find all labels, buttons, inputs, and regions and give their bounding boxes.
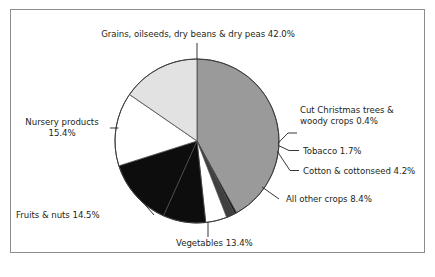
slice-label-christmas-trees-line2: woody crops 0.4% [300, 116, 432, 127]
chart-figure: Grains, oilseeds, dry beans & dry peas 4… [0, 0, 435, 277]
pie-slices [115, 59, 279, 223]
slice-label-nursery-line2: 15.4% [12, 128, 112, 139]
slice-label-nursery-line1: Nursery products [12, 117, 112, 128]
slice-label-christmas-trees: Cut Christmas trees & woody crops 0.4% [300, 105, 432, 127]
slice-label-all-other-crops: All other crops 8.4% [286, 194, 426, 205]
slice-label-christmas-trees-line1: Cut Christmas trees & [300, 105, 432, 116]
leader-line-other [262, 187, 279, 199]
slice-label-vegetables: Vegetables 13.4% [176, 238, 306, 249]
leader-line-xmas [278, 133, 297, 143]
leader-line-tobacco [279, 146, 299, 151]
slice-label-tobacco: Tobacco 1.7% [303, 146, 423, 157]
slice-label-fruits-nuts: Fruits & nuts 14.5% [16, 210, 146, 221]
slice-label-cotton: Cotton & cottonseed 4.2% [303, 166, 433, 177]
leader-line-cotton [277, 152, 299, 171]
slice-label-nursery: Nursery products 15.4% [12, 117, 112, 139]
slice-label-grains: Grains, oilseeds, dry beans & dry peas 4… [88, 29, 308, 40]
